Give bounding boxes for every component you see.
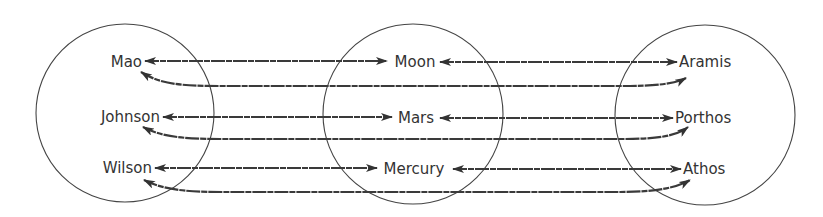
mapping-diagram: Mao Johnson Wilson Moon Mars Mercury Ara… [0,0,823,217]
arrow-mao-aramis [141,72,686,86]
label-johnson: Johnson [100,108,160,126]
label-aramis: Aramis [679,53,731,71]
arrow-johnson-porthos [143,127,688,139]
label-porthos: Porthos [675,109,731,127]
label-mao: Mao [111,53,142,71]
arrow-wilson-athos [144,180,690,192]
label-athos: Athos [683,160,726,178]
label-wilson: Wilson [103,159,152,177]
label-mercury: Mercury [384,160,445,178]
label-moon: Moon [395,53,436,71]
label-mars: Mars [398,109,434,127]
